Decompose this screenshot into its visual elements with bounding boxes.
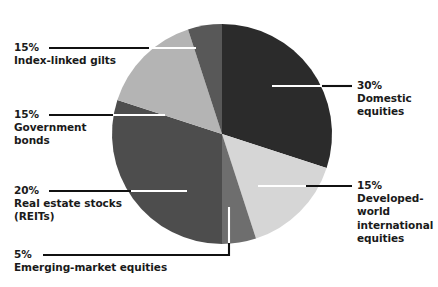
callout-name-line-3: international (357, 219, 433, 232)
callout-name-line-2: equities (357, 105, 412, 118)
callout-name: Index-linked gilts (14, 54, 116, 67)
pie-chart-figure: 15% Index-linked gilts 15% Government bo… (0, 0, 438, 287)
callout-percent: 15% (14, 41, 116, 54)
callout-emerging-market-equities: 5% Emerging-market equities (14, 248, 167, 274)
pie-slices (112, 24, 332, 244)
callout-government-bonds: 15% Government bonds (14, 108, 87, 148)
callout-developed-world-international-equities: 15% Developed- world international equit… (357, 179, 433, 245)
callout-percent: 5% (14, 248, 167, 261)
callout-percent: 30% (357, 79, 412, 92)
callout-real-estate-stocks-reits: 20% Real estate stocks (REITs) (14, 184, 122, 224)
callout-name-line-1: Real estate stocks (14, 197, 122, 210)
callout-name-line-2: world (357, 205, 433, 218)
callout-name-line-2: bonds (14, 134, 87, 147)
callout-percent: 15% (357, 179, 433, 192)
callout-percent: 15% (14, 108, 87, 121)
callout-name-line-1: Government (14, 121, 87, 134)
callout-percent: 20% (14, 184, 122, 197)
callout-name-line-1: Domestic (357, 92, 412, 105)
callout-index-linked-gilts: 15% Index-linked gilts (14, 41, 116, 67)
callout-name-line-4: equities (357, 232, 433, 245)
callout-name-line-2: (REITs) (14, 210, 122, 223)
callout-name: Emerging-market equities (14, 261, 167, 274)
callout-name-line-1: Developed- (357, 192, 433, 205)
callout-domestic-equities: 30% Domestic equities (357, 79, 412, 119)
